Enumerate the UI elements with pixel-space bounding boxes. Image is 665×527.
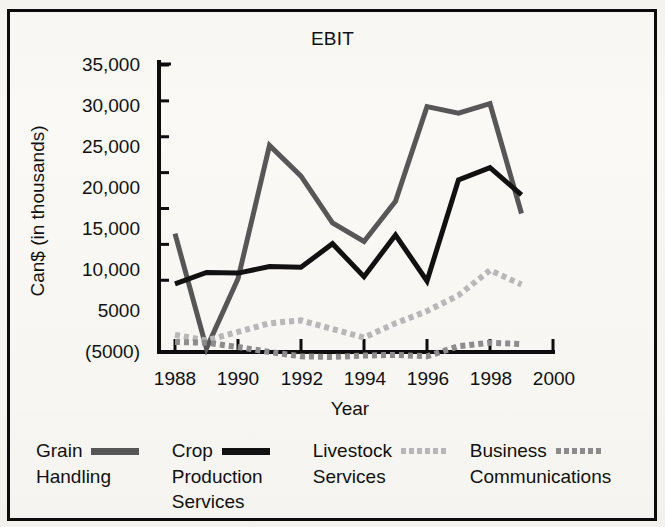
y-tick-label: 10,000: [30, 259, 140, 281]
y-tick-label: (5000): [30, 341, 140, 363]
legend-label-livestock: Livestock: [313, 440, 392, 462]
y-tick-label: 25,000: [30, 136, 140, 158]
legend-swatch-livestock-services: [401, 448, 449, 454]
legend-head: Crop: [172, 438, 270, 464]
series-line-crop-production-services: [175, 168, 522, 284]
legend-entry-crop-production-services: Crop Production Services: [172, 438, 313, 514]
legend-entry-business-communications: Business Communications: [470, 438, 646, 489]
legend-head: Livestock: [313, 438, 449, 464]
y-tick-label: 15,000: [30, 218, 140, 240]
legend-head: Business: [470, 438, 604, 464]
legend-label-business-line2: Communications: [470, 464, 612, 489]
legend-swatch-crop-production-services: [222, 448, 270, 455]
x-tick-label: 2000: [519, 368, 589, 390]
legend-label-grain: Grain: [36, 440, 82, 462]
legend-swatch-business-communications: [556, 448, 604, 454]
x-tick-label: 1992: [267, 368, 337, 390]
legend-head: Grain: [36, 438, 139, 464]
legend-label-business: Business: [470, 440, 547, 462]
series-line-grain-handling: [175, 104, 522, 349]
legend-label-livestock-line2: Services: [313, 464, 386, 489]
plot-area: [150, 60, 560, 365]
x-tick-label: 1988: [140, 368, 210, 390]
axis-lines: [159, 62, 553, 352]
y-tick-label: 30,000: [30, 95, 140, 117]
legend-swatch-grain-handling: [91, 448, 139, 455]
x-tick-label: 1994: [330, 368, 400, 390]
legend-entry-grain-handling: Grain Handling: [36, 438, 172, 489]
legend-label-grain-line2: Handling: [36, 464, 111, 489]
legend-label-crop-line3: Services: [172, 489, 245, 514]
y-tick-label: 5000: [30, 300, 140, 322]
x-tick-label: 1996: [393, 368, 463, 390]
x-axis-tick-labels: 1988 1990 1992 1994 1996 1998 2000: [0, 368, 665, 398]
chart-figure: EBIT Can$ (in thousands) 35,000 30,000 2…: [0, 0, 665, 527]
y-tick-label: 35,000: [30, 54, 140, 76]
legend-label-crop: Crop: [172, 440, 213, 462]
legend-entry-livestock-services: Livestock Services: [313, 438, 470, 489]
series-line-business-communications: [175, 342, 522, 357]
legend-label-crop-line2: Production: [172, 464, 263, 489]
x-tick-label: 1990: [203, 368, 273, 390]
x-tick-label: 1998: [456, 368, 526, 390]
y-tick-label: 20,000: [30, 177, 140, 199]
plot-svg: [150, 60, 560, 365]
chart-legend: Grain Handling Crop Production Services …: [36, 438, 646, 518]
x-axis-title: Year: [140, 398, 560, 420]
